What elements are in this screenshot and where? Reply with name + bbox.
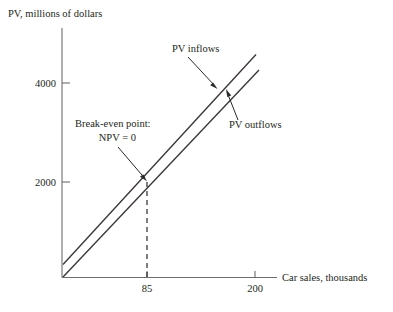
x-tick-label-200: 200 [247, 283, 263, 294]
chart-figure: PV, millions of dollars 4000 2000 85 200… [0, 0, 393, 312]
x-tick-label-85: 85 [142, 283, 153, 294]
series-label-pv-outflows: PV outflows [229, 119, 282, 130]
y-tick-label-4000: 4000 [35, 78, 56, 89]
pv-inflows-leader-line [188, 57, 215, 86]
series-line-pv-inflows [63, 55, 256, 265]
breakeven-label-line1: Break-even point: [75, 118, 151, 129]
chart-canvas: PV, millions of dollars 4000 2000 85 200… [0, 0, 393, 312]
breakeven-leader-line [118, 147, 145, 178]
y-axis-title: PV, millions of dollars [8, 8, 102, 19]
pv-inflows-arrow-icon [210, 82, 217, 89]
y-tick-label-2000: 2000 [35, 177, 56, 188]
series-line-pv-outflows [63, 70, 259, 277]
breakeven-label-line2: NPV = 0 [99, 132, 136, 143]
x-axis-title: Car sales, thousands [282, 272, 367, 283]
pv-outflows-arrow-icon [226, 89, 231, 97]
series-label-pv-inflows: PV inflows [172, 43, 219, 54]
